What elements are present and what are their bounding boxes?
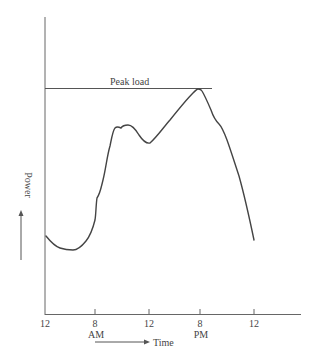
tick-label-4: 12 <box>249 318 259 329</box>
power-curve <box>46 89 254 250</box>
x-ticks <box>95 309 254 314</box>
power-arrow-head <box>19 210 24 216</box>
time-arrow-head <box>144 340 150 345</box>
pm-label: PM <box>194 329 209 340</box>
tick-label-3: 8 <box>198 318 203 329</box>
am-label: AM <box>88 329 104 340</box>
tick-label-0: 12 <box>40 318 50 329</box>
x-axis-label: Time <box>153 337 174 348</box>
tick-label-2: 12 <box>144 318 154 329</box>
peak-load-label: Peak load <box>110 76 149 87</box>
y-axis-label: Power <box>23 172 34 198</box>
power-demand-chart: 12 8 12 8 12 AM PM Time Power Peak load <box>0 0 315 359</box>
tick-label-1: 8 <box>93 318 98 329</box>
